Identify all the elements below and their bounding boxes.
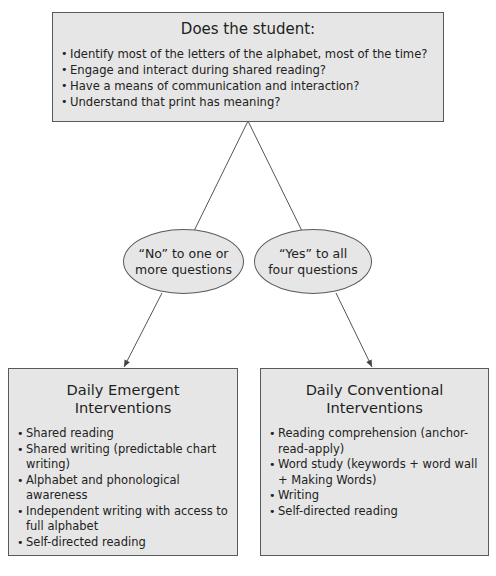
conventional-item: Self-directed reading (269, 504, 482, 520)
conventional-interventions-box: Daily Conventional Interventions Reading… (260, 368, 489, 556)
question-item: Identify most of the letters of the alph… (61, 46, 443, 62)
conventional-item: Word study (keywords + word wall + Makin… (269, 457, 482, 488)
question-item: Have a means of communication and intera… (61, 78, 443, 94)
decision-yes: “Yes” to all four questions (254, 229, 372, 294)
conventional-list: Reading comprehension (anchor-read-apply… (261, 426, 488, 519)
emergent-list: Shared reading Shared writing (predictab… (9, 426, 237, 550)
emergent-item: Self-directed reading (17, 535, 231, 551)
conventional-item: Reading comprehension (anchor-read-apply… (269, 426, 482, 457)
decision-no-label: “No” to one or more questions (134, 246, 234, 278)
emergent-item: Shared reading (17, 426, 231, 442)
question-box: Does the student: Identify most of the l… (52, 12, 444, 122)
emergent-title: Daily Emergent Interventions (9, 381, 237, 417)
emergent-item: Alphabet and phonological awareness (17, 473, 231, 504)
conventional-title: Daily Conventional Interventions (261, 381, 488, 417)
question-item: Understand that print has meaning? (61, 94, 443, 110)
conventional-item: Writing (269, 488, 482, 504)
arrow-to-conventional (336, 293, 372, 367)
decision-yes-label: “Yes” to all four questions (265, 246, 361, 278)
connector-to-yes (248, 121, 302, 231)
emergent-item: Independent writing with access to full … (17, 504, 231, 535)
question-list: Identify most of the letters of the alph… (53, 46, 443, 110)
emergent-item: Shared writing (predictable chart writin… (17, 442, 231, 473)
arrow-to-emergent (124, 293, 162, 367)
decision-no: “No” to one or more questions (123, 229, 244, 294)
connector-to-no (194, 121, 248, 231)
question-item: Engage and interact during shared readin… (61, 62, 443, 78)
question-box-title: Does the student: (53, 20, 443, 38)
emergent-interventions-box: Daily Emergent Interventions Shared read… (8, 368, 238, 556)
